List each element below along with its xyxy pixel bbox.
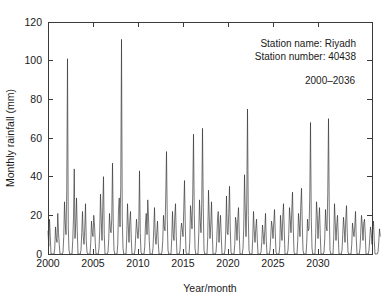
y-tick-label: 20 [30,209,42,221]
y-tick-label: 100 [24,54,42,66]
chart-canvas: 020406080100120 200020052010201520202025… [0,0,387,301]
y-tick-label: 60 [30,132,42,144]
x-axis-title: Year/month [183,282,236,294]
annotation-station-number: Station number: 40438 [255,51,357,62]
y-axis-title: Monthly rainfall (mm) [4,89,16,187]
y-tick-label: 120 [24,16,42,28]
x-tick-label: 2020 [216,257,240,269]
x-tick-label: 2000 [36,257,60,269]
x-tick-label: 2030 [306,257,330,269]
y-axis-tick-labels: 020406080100120 [24,16,42,260]
y-tick-label: 80 [30,93,42,105]
x-tick-label: 2005 [81,257,105,269]
x-axis-tick-labels: 2000200520102015202020252030 [36,257,330,269]
x-tick-label: 2025 [261,257,285,269]
x-tick-label: 2010 [126,257,150,269]
x-tick-label: 2015 [171,257,195,269]
y-tick-label: 40 [30,170,42,182]
annotation-station-name: Station name: Riyadh [260,38,356,49]
annotation-period: 2000–2036 [305,75,355,86]
rainfall-chart-figure: 020406080100120 200020052010201520202025… [0,0,387,301]
